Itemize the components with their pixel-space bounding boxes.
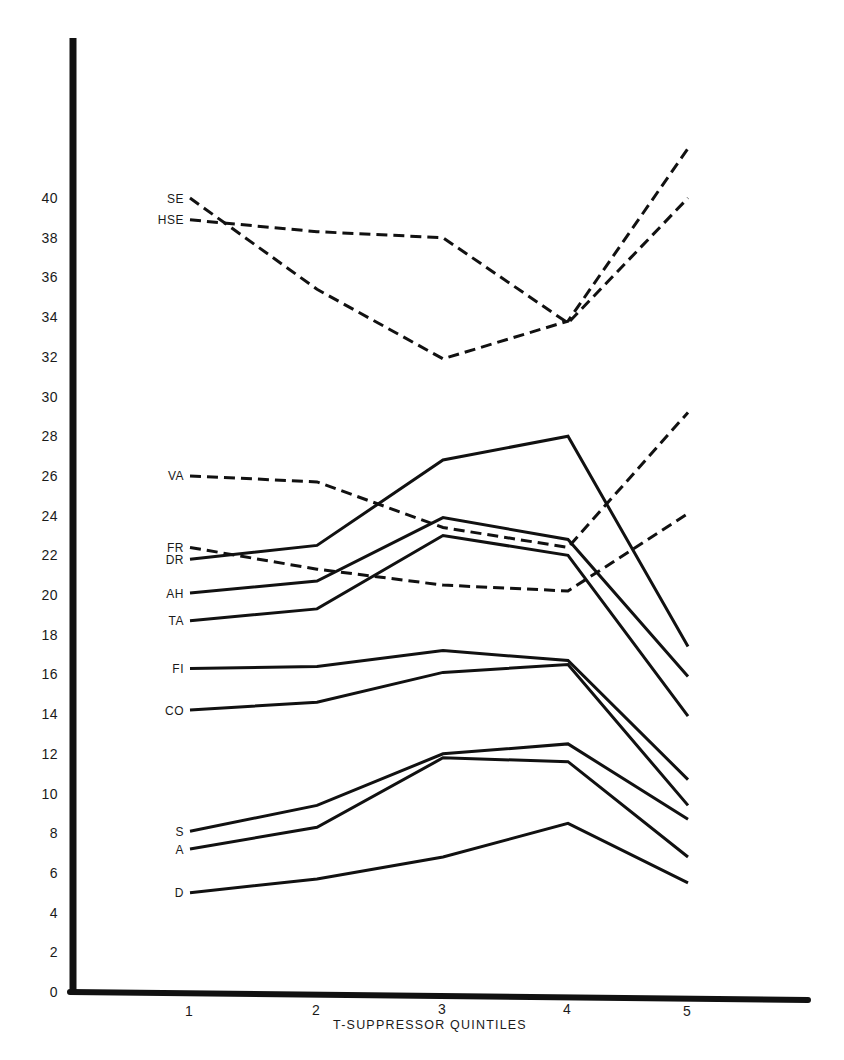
series-label-se: SE	[167, 192, 184, 206]
x-tick-label: 1	[185, 1003, 193, 1019]
y-tick-label: 28	[41, 428, 58, 444]
y-tick-label: 6	[50, 865, 58, 881]
series-label-s: S	[175, 825, 184, 839]
x-tick-label: 4	[563, 1001, 571, 1017]
y-tick-label: 16	[41, 666, 58, 682]
series-line-s	[190, 744, 688, 831]
y-axis-ticks: 0246810121416182022242628303234363840	[41, 190, 58, 1000]
x-tick-label: 5	[683, 1003, 691, 1019]
series-label-co: CO	[165, 704, 184, 718]
y-tick-label: 10	[41, 786, 58, 802]
y-tick-label: 2	[50, 944, 58, 960]
series-label-d: D	[175, 886, 184, 900]
series-lines	[190, 148, 688, 892]
x-tick-label: 3	[438, 1001, 446, 1017]
series-label-va: VA	[168, 469, 184, 483]
y-tick-label: 8	[50, 825, 58, 841]
y-tick-label: 12	[41, 746, 58, 762]
series-line-co	[190, 665, 688, 806]
y-tick-label: 34	[41, 309, 58, 325]
y-tick-label: 18	[41, 627, 58, 643]
y-tick-label: 26	[41, 468, 58, 484]
series-line-hse	[190, 198, 688, 323]
y-tick-label: 14	[41, 706, 58, 722]
y-tick-label: 4	[50, 905, 58, 921]
y-tick-label: 20	[41, 587, 58, 603]
y-tick-label: 36	[41, 269, 58, 285]
y-tick-label: 38	[41, 230, 58, 246]
x-axis-title: T-SUPPRESSOR QUINTILES	[333, 1018, 527, 1032]
series-label-hse: HSE	[158, 213, 184, 227]
series-line-se	[190, 148, 688, 358]
series-label-dr: DR	[166, 553, 184, 567]
series-labels: SEHSEVAFRDRAHTAFICOSAD	[158, 192, 184, 901]
series-line-va	[190, 412, 688, 547]
x-axis-ticks: 12345	[185, 1001, 691, 1019]
series-label-ta: TA	[169, 614, 184, 628]
series-label-ah: AH	[166, 587, 184, 601]
series-line-d	[190, 823, 688, 893]
x-axis-line	[70, 992, 808, 1000]
y-tick-label: 24	[41, 508, 58, 524]
x-tick-label: 2	[312, 1002, 320, 1018]
y-tick-label: 0	[50, 984, 58, 1000]
y-tick-label: 22	[41, 547, 58, 563]
y-tick-label: 30	[41, 389, 58, 405]
line-chart: 0246810121416182022242628303234363840 12…	[0, 0, 844, 1060]
series-label-fi: FI	[172, 662, 184, 676]
y-tick-label: 40	[41, 190, 58, 206]
series-label-a: A	[175, 843, 184, 857]
y-tick-label: 32	[41, 349, 58, 365]
